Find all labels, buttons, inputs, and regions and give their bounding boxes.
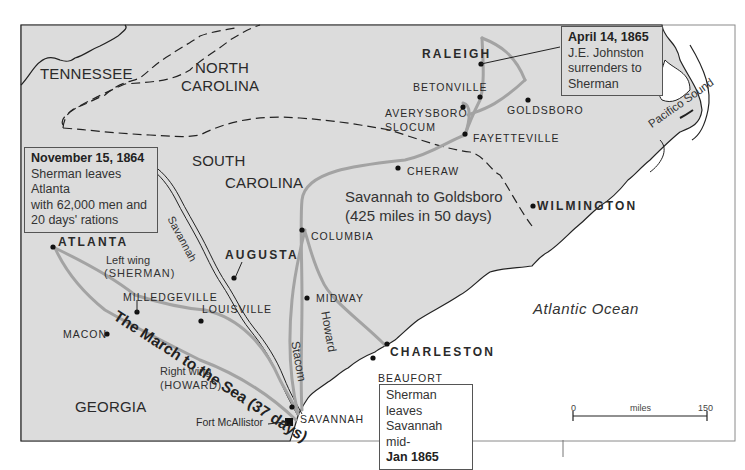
scale-unit: miles	[630, 403, 651, 413]
city-charleston: CHARLESTON	[390, 346, 495, 358]
note-atlanta-title: November 15, 1864	[31, 151, 151, 167]
state-label-carolina-s: CAROLINA	[225, 175, 303, 190]
city-milledgeville: MILLEDGEVILLE	[123, 292, 218, 303]
city-atlanta: ATLANTA	[58, 236, 128, 248]
city-columbia: COLUMBIA	[311, 231, 374, 242]
city-beaufort: BEAUFORT	[378, 373, 443, 384]
city-betonville: BETONVILLE	[413, 82, 488, 93]
city-averysboro: AVERYSBORO	[385, 108, 468, 119]
city-goldsboro: GOLDSBORO	[507, 105, 584, 116]
note-raleigh-title: April 14, 1865	[568, 30, 656, 46]
city-augusta: AUGUSTA	[225, 249, 299, 261]
city-louisville: LOUISVILLE	[202, 304, 272, 315]
city-midway: MIDWAY	[316, 293, 364, 304]
city-wilmington: WILMINGTON	[537, 200, 637, 212]
savannah-goldsboro-label: Savannah to Goldsboro	[345, 189, 503, 204]
note-line: Savannah mid-	[386, 419, 466, 450]
fort-mcallister: Fort McAllistor	[196, 417, 263, 428]
note-raleigh: April 14, 1865 J.E. Johnston surrenders …	[561, 26, 663, 96]
note-line: Sherman	[568, 77, 656, 93]
city-cheraw: CHERAW	[407, 166, 459, 177]
note-line: with 62,000 men and	[31, 198, 151, 214]
city-raleigh: RALEIGH	[422, 48, 491, 60]
city-fayetteville: FAYETTEVILLE	[473, 133, 560, 144]
note-line: J.E. Johnston	[568, 46, 656, 62]
city-macon: MACON	[63, 329, 107, 340]
note-line: 20 days' rations	[31, 213, 151, 229]
left-wing-label: Left wing	[106, 255, 150, 266]
scale-max: 150	[698, 403, 713, 413]
note-line: Sherman leaves	[386, 388, 466, 419]
state-label-georgia: GEORGIA	[75, 399, 146, 414]
left-wing-commander: (SHERMAN)	[104, 268, 175, 279]
note-savannah-date: Jan 1865	[386, 450, 466, 466]
note-atlanta: November 15, 1864 Sherman leaves Atlanta…	[24, 147, 158, 233]
state-label-carolina-n: CAROLINA	[181, 78, 259, 93]
scale-min: 0	[571, 403, 576, 413]
atlantic-ocean-label: Atlantic Ocean	[533, 301, 639, 316]
note-line: Sherman leaves	[31, 167, 151, 183]
state-label-south: SOUTH	[192, 153, 246, 168]
note-line: surrenders to	[568, 61, 656, 77]
state-label-tennessee: TENNESSEE	[40, 66, 133, 81]
city-savannah: SAVANNAH	[300, 414, 364, 425]
note-savannah: Sherman leaves Savannah mid- Jan 1865	[379, 384, 473, 470]
note-line: Atlanta	[31, 182, 151, 198]
city-slocum: SLOCUM	[385, 122, 436, 133]
state-label-north: NORTH	[195, 60, 249, 75]
savannah-goldsboro-distance: (425 miles in 50 days)	[345, 208, 492, 223]
